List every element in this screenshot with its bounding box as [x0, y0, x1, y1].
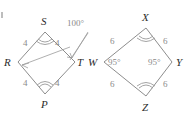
side-label-rs: 4 — [23, 38, 28, 48]
angle-arc-s-inner — [38, 39, 52, 42]
angle-arc-s-outer — [36, 41, 54, 45]
side-label-zy: 6 — [163, 79, 168, 89]
rhombus-rstp: S T P R 4 4 4 4 100° — [3, 15, 88, 110]
edge-speck — [1, 12, 3, 18]
figure-canvas: S T P R 4 4 4 4 100° X Y Z W — [0, 0, 195, 124]
side-label-pt: 4 — [55, 78, 60, 88]
side-label-xy: 6 — [163, 36, 168, 46]
angle-label-y: 95° — [148, 57, 161, 67]
leader-arrowhead-t — [67, 53, 72, 58]
angle-arc-z-outer — [137, 83, 155, 87]
angle-arc-p-inner — [39, 84, 51, 87]
vertex-label-s: S — [41, 15, 47, 27]
angle-arc-z-inner — [139, 85, 153, 88]
side-label-rp: 4 — [23, 78, 28, 88]
vertex-label-t: T — [77, 56, 84, 68]
geometry-diagram: S T P R 4 4 4 4 100° X Y Z W — [0, 0, 195, 124]
vertex-label-x: X — [141, 11, 150, 23]
vertex-label-r: R — [3, 56, 11, 68]
vertex-label-y: Y — [176, 56, 184, 68]
side-label-wz: 6 — [110, 79, 115, 89]
vertex-label-z: Z — [142, 101, 149, 113]
side-label-wx: 6 — [110, 36, 115, 46]
vertex-label-w: W — [88, 56, 98, 68]
angle-label-100: 100° — [67, 18, 85, 28]
angle-label-w: 95° — [108, 57, 121, 67]
angle-arc-x-inner — [139, 36, 153, 39]
side-label-st: 4 — [55, 38, 60, 48]
rhombus-wxyz: X Y Z W 6 6 6 6 95° 95° — [88, 11, 184, 113]
vertex-label-p: P — [40, 98, 48, 110]
angle-arc-x-outer — [137, 38, 155, 42]
